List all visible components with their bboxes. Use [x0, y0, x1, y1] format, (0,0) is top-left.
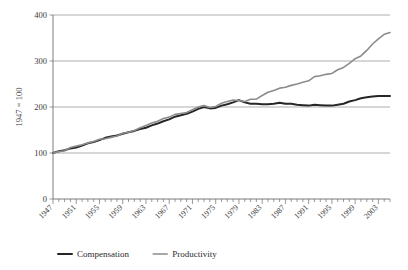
y-axis-title: 1947 = 100	[14, 88, 24, 127]
gridlines	[53, 15, 390, 199]
chart-figure: 0100200300400 19471951195519591963196719…	[0, 0, 408, 270]
x-tick-label-1955: 1955	[83, 203, 101, 221]
x-tick-label-1979: 1979	[223, 203, 241, 221]
x-tick-label-1959: 1959	[106, 203, 124, 221]
x-tick-label-1971: 1971	[176, 203, 194, 221]
legend-label-productivity: Productivity	[172, 249, 217, 259]
series-line-compensation	[53, 96, 390, 153]
series-lines	[53, 32, 390, 153]
x-axis: 1947195119551959196319671971197519791983…	[37, 199, 390, 221]
x-tick-label-1983: 1983	[246, 203, 264, 221]
y-tick-label-300: 300	[34, 56, 47, 66]
x-tick-label-1963: 1963	[130, 203, 148, 221]
x-tick-label-2003: 2003	[362, 203, 380, 221]
x-tick-label-1947: 1947	[37, 203, 55, 221]
x-tick-label-1995: 1995	[316, 203, 334, 221]
x-tick-label-1967: 1967	[153, 203, 171, 221]
x-tick-label-1951: 1951	[60, 203, 78, 221]
line-chart: 0100200300400 19471951195519591963196719…	[0, 0, 408, 270]
chart-legend: CompensationProductivity	[58, 249, 217, 259]
x-tick-label-1975: 1975	[199, 203, 217, 221]
x-tick-label-1991: 1991	[292, 203, 310, 221]
y-axis: 0100200300400	[34, 10, 53, 204]
y-axis-title-text: 1947 = 100	[14, 88, 24, 127]
y-tick-label-400: 400	[34, 10, 47, 20]
legend-label-compensation: Compensation	[77, 249, 129, 259]
x-tick-label-1999: 1999	[339, 203, 357, 221]
y-tick-label-100: 100	[34, 148, 47, 158]
x-tick-label-1987: 1987	[269, 203, 287, 221]
y-tick-label-200: 200	[34, 102, 47, 112]
y-tick-label-0: 0	[43, 194, 47, 204]
series-line-productivity	[53, 32, 390, 153]
